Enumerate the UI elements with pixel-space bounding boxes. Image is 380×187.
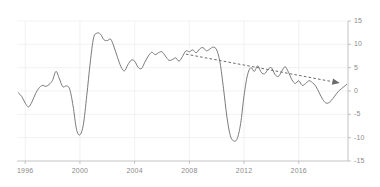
y-axis-tick-label: 10: [354, 40, 362, 47]
y-axis-tick-label: 15: [354, 17, 362, 24]
data-line-main-series: [18, 33, 346, 141]
x-axis-tick-label: 2000: [68, 167, 92, 174]
chart-plot-area: [0, 0, 380, 187]
axis-ticks-group: [25, 21, 351, 164]
y-axis-tick-label: 5: [354, 64, 358, 71]
x-axis-tick-label: 2016: [287, 167, 311, 174]
x-axis-tick-label: 2008: [177, 167, 201, 174]
y-axis-tick-label: -15: [354, 157, 365, 164]
chart-container: 151050-5-10-15 199620002004200820122016: [0, 0, 380, 187]
gridlines-group: [17, 21, 348, 161]
x-axis-tick-label: 2012: [232, 167, 256, 174]
x-axis-tick-label: 1996: [13, 167, 37, 174]
trend-arrowhead-icon: [332, 79, 340, 85]
y-axis-tick-label: -10: [354, 134, 365, 141]
x-axis-tick-label: 2004: [123, 167, 147, 174]
y-axis-tick-label: -5: [354, 110, 361, 117]
y-axis-tick-label: 0: [354, 87, 358, 94]
